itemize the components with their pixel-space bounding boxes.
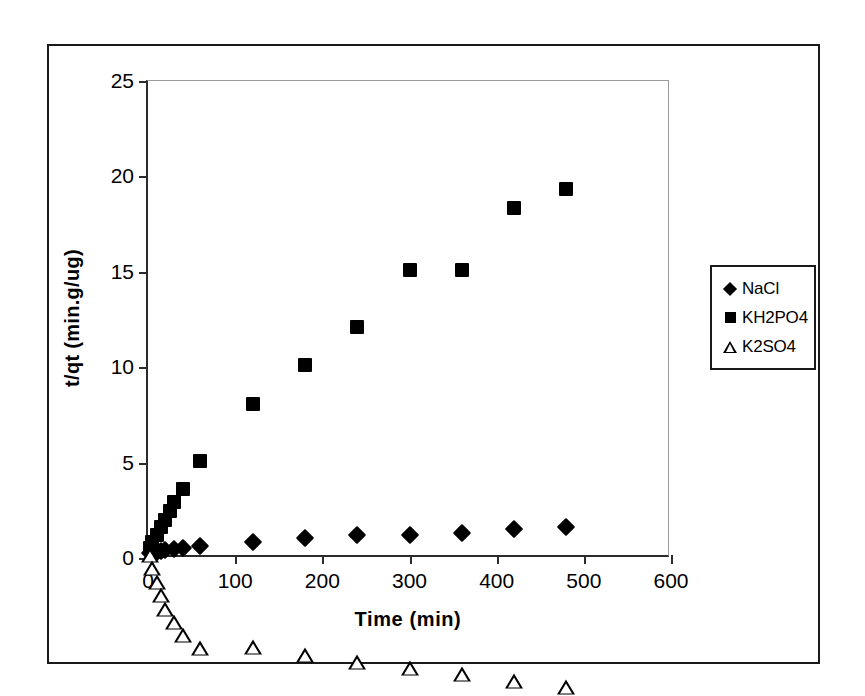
marker-square <box>163 504 177 518</box>
chart-canvas: 05101520250100200300400500600 t/qt (min.… <box>0 0 865 696</box>
y-axis-tick <box>139 176 148 178</box>
x-axis-tick-label: 200 <box>305 569 340 593</box>
legend-filled-square-icon <box>725 312 736 323</box>
y-axis-tick-label: 5 <box>122 451 134 475</box>
x-axis-tick-label: 500 <box>566 569 601 593</box>
marker-triangle <box>174 628 192 643</box>
marker-triangle <box>505 674 523 689</box>
marker-triangle <box>191 640 209 655</box>
legend-filled-diamond-icon <box>723 281 737 295</box>
marker-square <box>167 495 181 509</box>
legend-label: K2SO4 <box>742 337 796 357</box>
y-axis-tick <box>139 81 148 83</box>
marker-square <box>298 358 312 372</box>
marker-diamond <box>191 537 209 555</box>
marker-square <box>150 528 164 542</box>
marker-diamond <box>557 517 575 535</box>
legend-item-nacl[interactable]: NaCl <box>720 274 808 303</box>
y-axis-tick-label: 0 <box>122 546 134 570</box>
x-axis-tick <box>410 555 412 564</box>
marker-triangle <box>156 601 174 616</box>
y-axis-tick-label: 10 <box>111 355 134 379</box>
y-axis-tick <box>139 272 148 274</box>
marker-square <box>246 397 260 411</box>
legend-marker-icon <box>720 341 740 353</box>
marker-square <box>403 263 417 277</box>
marker-square <box>145 535 159 549</box>
plot-area: 05101520250100200300400500600 <box>146 80 669 557</box>
x-axis-tick-label: 100 <box>218 569 253 593</box>
x-axis-tick <box>584 555 586 564</box>
marker-diamond <box>165 540 183 558</box>
legend-open-triangle-icon <box>723 341 737 353</box>
legend-marker-icon <box>720 284 740 294</box>
legend-marker-icon <box>720 312 740 323</box>
y-axis-tick <box>139 367 148 369</box>
marker-triangle <box>152 588 170 603</box>
marker-square <box>158 513 172 527</box>
x-axis-tick <box>497 555 499 564</box>
x-axis-tick-label: 300 <box>392 569 427 593</box>
chart-legend: NaClKH2PO4K2SO4 <box>710 265 816 370</box>
marker-triangle <box>296 647 314 662</box>
y-axis-tick-label: 15 <box>111 260 134 284</box>
y-axis-tick-label: 20 <box>111 164 134 188</box>
y-axis-tick <box>139 463 148 465</box>
legend-item-k2so4[interactable]: K2SO4 <box>720 332 808 361</box>
legend-label: KH2PO4 <box>742 308 808 328</box>
marker-triangle <box>401 660 419 675</box>
marker-square <box>350 320 364 334</box>
marker-triangle <box>244 640 262 655</box>
marker-square <box>507 201 521 215</box>
marker-diamond <box>453 524 471 542</box>
x-axis-tick-label: 0 <box>142 569 154 593</box>
marker-triangle <box>165 614 183 629</box>
marker-diamond <box>243 533 261 551</box>
marker-diamond <box>156 541 174 559</box>
x-axis-tick <box>322 555 324 564</box>
legend-item-kh2po4[interactable]: KH2PO4 <box>720 303 808 332</box>
marker-diamond <box>296 529 314 547</box>
marker-square <box>559 182 573 196</box>
marker-triangle <box>348 655 366 670</box>
marker-square <box>193 454 207 468</box>
marker-square <box>176 482 190 496</box>
legend-label: NaCl <box>742 279 779 299</box>
y-axis-title: t/qt (min.g/ug) <box>61 249 84 387</box>
x-axis-tick-label: 400 <box>479 569 514 593</box>
marker-square <box>143 541 157 555</box>
marker-triangle <box>453 667 471 682</box>
marker-diamond <box>174 538 192 556</box>
marker-square <box>154 520 168 534</box>
marker-triangle <box>557 679 575 694</box>
y-axis-tick-label: 25 <box>111 69 134 93</box>
x-axis-tick-label: 600 <box>653 569 688 593</box>
marker-square <box>455 263 469 277</box>
x-axis-tick <box>671 555 673 564</box>
marker-diamond <box>348 526 366 544</box>
y-axis-tick <box>139 558 148 560</box>
marker-diamond <box>152 542 170 560</box>
x-axis-tick <box>235 555 237 564</box>
marker-diamond <box>148 543 166 561</box>
marker-diamond <box>505 520 523 538</box>
marker-diamond <box>400 526 418 544</box>
x-axis-title: Time (min) <box>355 608 462 631</box>
